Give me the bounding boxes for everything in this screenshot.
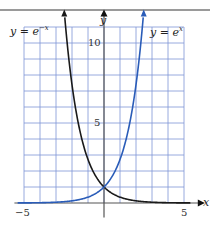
y-axis-label: y xyxy=(100,14,106,27)
x-axis-label: x xyxy=(203,196,209,209)
curve-e-x xyxy=(18,17,144,203)
curve-label-base: y = e xyxy=(10,25,39,38)
curve-arrow-icon xyxy=(61,9,67,16)
curve-label-e-x: y = ex xyxy=(150,25,183,39)
y-tick-5: 5 xyxy=(94,117,100,128)
curve-e-neg-x xyxy=(65,17,191,203)
curve-arrow-icon xyxy=(141,9,147,16)
y-tick-10: 10 xyxy=(88,37,101,48)
curve-label-exponent: x xyxy=(179,25,183,33)
curve-label-base: y = e xyxy=(150,26,179,39)
curve-label-e-neg-x: y = e−x xyxy=(10,24,49,38)
x-tick-max: 5 xyxy=(181,207,187,218)
x-tick-min: −5 xyxy=(15,207,30,218)
curve-label-exponent: −x xyxy=(39,24,49,32)
